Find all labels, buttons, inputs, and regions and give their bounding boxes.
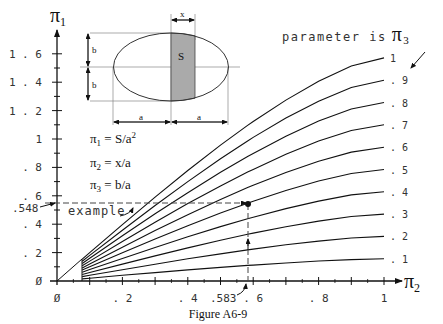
curve-label: . 4 [390,187,408,198]
y-tick-label: . 4 [22,218,42,231]
curve-family: 1. 9. 8. 7. 6. 5. 4. 3. 2. 1 [82,53,408,279]
y-ticks: Ø. 2. 4. 6. 811 . 21 . 41 . 6 [9,48,62,288]
y-tick-label: 1 . 6 [9,48,42,61]
example-point [245,201,251,207]
y-tick-label: . 6 [22,190,42,203]
curve-label: . 7 [390,120,408,131]
x-tick-label: . 6 [243,292,263,305]
equations: π1 = S/a2 π2 = x/a π3 = b/a [90,130,136,194]
x-tick-label: . 2 [112,292,132,305]
curve-label: . 5 [390,165,408,176]
y-tick-label: . 8 [22,161,42,174]
y-tick-label: 1 [35,133,42,146]
y-tick-label: 1 . 2 [9,105,42,118]
x-tick-label: 1 [381,292,388,305]
a-right-label: a [197,112,201,122]
a-left-label: a [139,112,143,122]
curve-label: . 1 [390,254,408,265]
b-bottom-label: b [92,80,97,90]
axes: Ø. 2. 4. 6. 811 . 21 . 41 . 6 Ø. 2. 4. 6… [9,30,402,305]
x-tick-label: . 4 [178,292,198,305]
curve-.9 [82,80,384,261]
y-tick-label: Ø [35,275,42,288]
figure-caption: Figure A6-9 [189,307,247,321]
curve-label: . 9 [390,75,408,86]
b-top-label: b [92,45,97,55]
parameter-arrow [411,52,425,68]
x-tick-label: . 8 [309,292,329,305]
example-x-value: .583 [210,292,237,305]
example-y-value: .548 [12,202,39,215]
curve-label: . 3 [390,209,408,220]
x-axis-label: π2 [404,270,420,295]
figure-a6-9: Ø. 2. 4. 6. 811 . 21 . 41 . 6 Ø. 2. 4. 6… [0,0,443,324]
shaded-strip [171,33,195,101]
x-tick-label: Ø [54,292,61,305]
strip-label: S [178,50,184,62]
parameter-note: parameter isπ3 [282,23,410,46]
curve-label: 1 [390,53,396,64]
curve-label: . 2 [390,231,408,242]
y-tick-label: 1 . 4 [9,76,42,89]
curve-label: . 6 [390,142,408,153]
example-label: example [68,204,126,218]
equation-pi3: π3 = b/a [90,177,131,194]
ellipse-diagram: S x b b a a [80,9,240,125]
equation-pi2: π2 = x/a [90,155,131,172]
origin-line [57,259,82,281]
y-axis-label: π1 [50,4,66,29]
equation-pi1: π1 = S/a2 [90,130,136,148]
y-tick-label: . 2 [22,247,42,260]
curve-label: . 8 [390,98,408,109]
x-dim-label: x [180,9,185,19]
